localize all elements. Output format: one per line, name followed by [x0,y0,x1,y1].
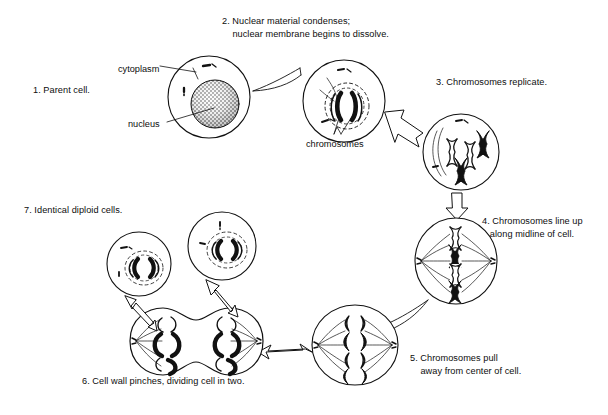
step-caption-1: 1. Parent cell. [33,84,90,97]
parent-cell [168,56,250,138]
step-caption-7: 7. Identical diploid cells. [24,204,122,217]
label-cytoplasm: cytoplasm [118,63,159,75]
arrow-2-to-3 [385,110,423,147]
arrow-1-to-2 [253,68,301,91]
step-caption-6: 6. Cell wall pinches, dividing cell in t… [82,375,245,388]
arrow-4-to-5 [389,300,428,330]
step-caption-2: 2. Nuclear material condenses; nuclear m… [222,15,389,41]
step-caption-3: 3. Chromosomes replicate. [436,76,547,89]
arrow-5-to-6 [258,344,312,359]
daughter-cell-right [188,212,256,280]
daughter-cell-left [107,232,171,296]
mitosis-diagram: 1. Parent cell. 2. Nuclear material cond… [0,0,608,415]
replicated-cell [423,114,499,190]
label-nucleus: nucleus [128,118,160,130]
anaphase-cell [312,305,398,385]
step-caption-4: 4. Chromosomes line up along midline of … [482,215,583,241]
arrow-3-to-4 [446,193,468,220]
step-caption-5: 5. Chromosomes pull away from center of … [410,352,521,378]
label-chromosomes: chromosomes [306,138,364,150]
